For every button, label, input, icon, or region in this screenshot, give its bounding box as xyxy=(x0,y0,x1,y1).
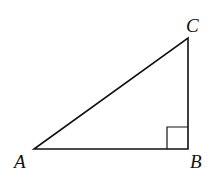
right-angle-marker xyxy=(167,127,188,149)
vertex-label-a: A xyxy=(12,151,26,172)
vertex-label-b: B xyxy=(190,151,202,172)
vertex-label-c: C xyxy=(186,15,199,36)
triangle-abc xyxy=(34,38,188,149)
triangle-diagram: C A B xyxy=(0,0,215,177)
